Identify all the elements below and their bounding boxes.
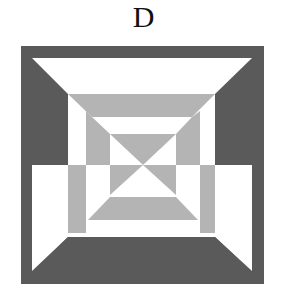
pattern-figure [0,0,287,295]
light-right-lower [200,165,215,233]
bottom-dark-trapezoid [32,237,252,272]
light-left-lower [68,165,86,233]
light-top-band [68,94,215,117]
top-trapezoid [32,58,252,94]
